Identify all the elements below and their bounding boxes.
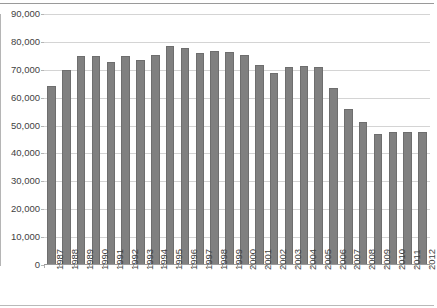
x-tick-label: 1989 (85, 249, 95, 270)
x-tick-mark (237, 265, 238, 268)
bar (285, 67, 294, 264)
bar (240, 55, 249, 264)
x-tick-mark (430, 265, 431, 268)
bar (255, 65, 264, 264)
bar (270, 73, 279, 264)
x-tick-mark (385, 265, 386, 268)
x-tick-label: 2005 (323, 249, 333, 270)
x-tick-label: 2001 (263, 249, 273, 270)
bar (359, 122, 368, 264)
x-tick-mark (192, 265, 193, 268)
x-tick-label: 1995 (174, 249, 184, 270)
y-axis-line (0, 14, 1, 266)
x-tick-label: 2003 (293, 249, 303, 270)
x-tick-label: 1992 (130, 249, 140, 270)
x-tick-label: 2009 (382, 249, 392, 270)
x-tick-mark (400, 265, 401, 268)
y-tick-mark (41, 153, 44, 154)
x-tick-label: 2004 (308, 249, 318, 270)
x-tick-mark (356, 265, 357, 268)
x-tick-label: 1991 (115, 249, 125, 270)
x-tick-label: 2011 (412, 250, 422, 270)
y-tick-mark (41, 42, 44, 43)
bar (374, 134, 383, 264)
y-tick-label: 90,000 (0, 9, 40, 19)
bar (225, 52, 234, 264)
x-tick-mark (148, 265, 149, 268)
bar (77, 56, 86, 264)
y-tick-mark (41, 237, 44, 238)
x-tick-label: 2010 (397, 249, 407, 270)
bar (121, 56, 130, 264)
x-tick-label: 2000 (248, 249, 258, 270)
x-tick-label: 1998 (219, 249, 229, 270)
x-tick-mark (326, 265, 327, 268)
bar (300, 66, 309, 264)
y-tick-mark (41, 70, 44, 71)
y-tick-mark (41, 265, 44, 266)
bar-series (44, 14, 430, 264)
x-tick-label: 1999 (234, 249, 244, 270)
y-tick-label: 80,000 (0, 37, 40, 47)
bar (403, 132, 412, 264)
bar (92, 56, 101, 264)
y-tick-label: 30,000 (0, 176, 40, 186)
bar (389, 132, 398, 264)
x-tick-mark (222, 265, 223, 268)
x-tick-mark (133, 265, 134, 268)
x-tick-mark (118, 265, 119, 268)
x-tick-label: 1996 (189, 249, 199, 270)
x-tick-label: 1993 (145, 249, 155, 270)
x-tick-mark (282, 265, 283, 268)
bottom-divider (0, 305, 434, 306)
bar (47, 86, 56, 264)
x-tick-mark (311, 265, 312, 268)
x-tick-mark (178, 265, 179, 268)
x-tick-mark (296, 265, 297, 268)
x-tick-label: 1990 (100, 249, 110, 270)
bar (418, 132, 427, 264)
bar (136, 60, 145, 264)
top-divider (0, 3, 434, 4)
x-tick-mark (89, 265, 90, 268)
y-tick-label: 10,000 (0, 232, 40, 242)
x-tick-label: 1987 (55, 249, 65, 270)
bar (151, 55, 160, 264)
y-tick-label: 50,000 (0, 121, 40, 131)
x-tick-mark (74, 265, 75, 268)
x-tick-label: 1994 (159, 249, 169, 270)
bar (107, 62, 116, 264)
plot-area (44, 14, 430, 265)
x-tick-mark (267, 265, 268, 268)
y-tick-mark (41, 126, 44, 127)
bar (210, 51, 219, 264)
x-tick-label: 2002 (278, 249, 288, 270)
x-tick-label: 2006 (338, 249, 348, 270)
x-tick-mark (207, 265, 208, 268)
bar (314, 67, 323, 264)
x-tick-mark (341, 265, 342, 268)
bar (196, 53, 205, 264)
x-tick-mark (59, 265, 60, 268)
y-tick-mark (41, 209, 44, 210)
y-tick-label: 70,000 (0, 65, 40, 75)
x-tick-label: 2007 (352, 249, 362, 270)
bar (166, 46, 175, 264)
x-tick-mark (252, 265, 253, 268)
y-tick-mark (41, 181, 44, 182)
y-axis-labels: 010,00020,00030,00040,00050,00060,00070,… (0, 0, 40, 308)
x-tick-mark (163, 265, 164, 268)
x-tick-mark (415, 265, 416, 268)
x-axis-labels: 1987198819891990199119921993199419951996… (44, 265, 430, 308)
bar (62, 70, 71, 264)
bar (344, 109, 353, 264)
x-tick-label: 2008 (367, 249, 377, 270)
y-tick-label: 20,000 (0, 204, 40, 214)
bar (181, 48, 190, 264)
y-tick-mark (41, 14, 44, 15)
y-tick-label: 40,000 (0, 148, 40, 158)
bar (329, 88, 338, 264)
x-tick-label: 1988 (70, 249, 80, 270)
x-tick-mark (44, 265, 45, 268)
